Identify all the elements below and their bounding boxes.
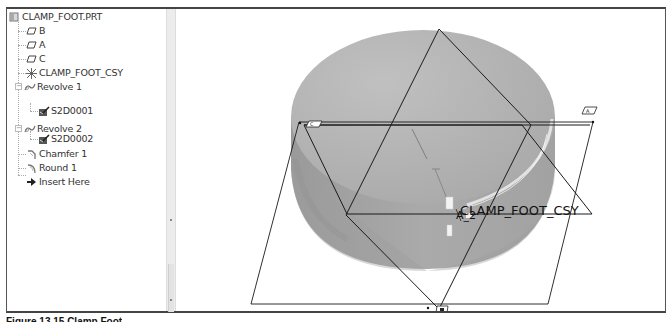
tree-item-datum-c[interactable]: C xyxy=(26,52,45,66)
tree-item-label: B xyxy=(39,24,45,38)
collapse-toggle[interactable]: − xyxy=(15,125,22,132)
tree-item-label: Round 1 xyxy=(39,161,77,175)
scroll-grip xyxy=(170,219,172,221)
sketch-icon xyxy=(38,134,49,144)
datum-plane-icon xyxy=(26,40,37,50)
tree-guide xyxy=(18,73,26,74)
datum-tag-c: C xyxy=(306,121,322,127)
collapse-toggle[interactable]: − xyxy=(15,83,22,90)
scrollbar-thumb[interactable] xyxy=(168,264,174,312)
part-icon xyxy=(9,12,20,22)
scroll-grip xyxy=(170,299,172,301)
revolve-icon xyxy=(24,124,35,134)
tree-item-label: A xyxy=(39,38,45,52)
tree-item-label: S2D0002 xyxy=(51,132,93,146)
svg-text:A: A xyxy=(586,108,590,114)
round-icon xyxy=(26,163,37,173)
tree-item-datum-a[interactable]: A xyxy=(26,38,45,52)
datum-tag-b xyxy=(436,306,448,311)
model-tree: CLAMP_FOOT.PRT B A C xyxy=(7,9,164,311)
tree-item-label: S2D0001 xyxy=(51,104,93,118)
tree-item-sketch-1[interactable]: S2D0001 xyxy=(38,104,93,118)
tree-item-label: CLAMP_FOOT.PRT xyxy=(22,10,102,24)
application-frame: CLAMP_FOOT.PRT B A C xyxy=(6,7,666,313)
tree-item-label: Chamfer 1 xyxy=(39,147,87,161)
axis-label: A_2 xyxy=(456,209,476,222)
tree-item-label: CLAMP_FOOT_CSY xyxy=(39,66,123,80)
tree-item-insert-here[interactable]: Insert Here xyxy=(26,175,90,189)
tree-guide xyxy=(18,59,26,60)
tree-guide xyxy=(18,31,26,32)
tree-guide xyxy=(18,45,26,46)
model-graphics: C A CLAMP_FOOT_CSY A_2 xyxy=(175,9,667,311)
graphics-viewport[interactable]: C A CLAMP_FOOT_CSY A_2 xyxy=(175,9,665,311)
revolve-icon xyxy=(24,82,35,92)
tree-guide xyxy=(30,103,31,111)
insert-arrow-icon xyxy=(26,177,37,187)
tree-item-label: C xyxy=(39,52,45,66)
tree-item-chamfer-1[interactable]: Chamfer 1 xyxy=(26,147,87,161)
tree-guide xyxy=(30,139,38,140)
csys-label: CLAMP_FOOT_CSY xyxy=(460,203,579,218)
tree-item-csys[interactable]: CLAMP_FOOT_CSY xyxy=(26,66,123,80)
tree-guide xyxy=(18,154,26,155)
tree-item-round-1[interactable]: Round 1 xyxy=(26,161,77,175)
datum-tag-a: A xyxy=(582,107,597,114)
tree-root[interactable]: CLAMP_FOOT.PRT xyxy=(9,10,102,24)
tree-item-datum-b[interactable]: B xyxy=(26,24,45,38)
model-top-face xyxy=(291,30,555,204)
svg-text:C: C xyxy=(310,121,314,127)
chamfer-icon xyxy=(26,149,37,159)
tree-item-sketch-2[interactable]: S2D0002 xyxy=(38,132,93,146)
datum-plane-icon xyxy=(26,54,37,64)
tree-item-label: Insert Here xyxy=(39,175,90,189)
tree-guide xyxy=(18,168,26,169)
datum-plane-icon xyxy=(26,26,37,36)
tree-guide xyxy=(30,111,38,112)
tree-item-label: Revolve 1 xyxy=(37,80,82,94)
figure-caption: Figure 13.15 Clamp Foot xyxy=(6,315,122,322)
tree-item-revolve-1[interactable]: Revolve 1 xyxy=(24,80,82,94)
coordinate-system-icon xyxy=(26,68,37,78)
tree-guide xyxy=(18,175,26,176)
sketch-icon xyxy=(38,106,49,116)
